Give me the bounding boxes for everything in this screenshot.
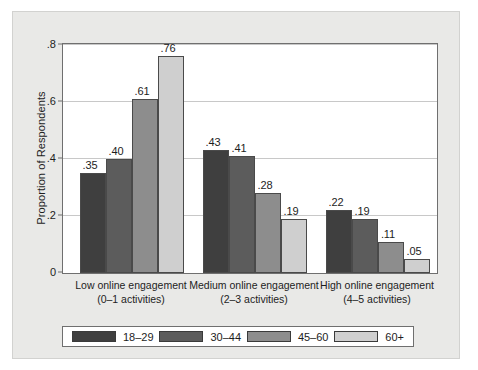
y-axis-tick-label: .6 xyxy=(47,95,63,107)
bar-value-label: .61 xyxy=(135,85,150,97)
bar-value-label: .05 xyxy=(407,245,422,257)
y-axis-tick-label: .2 xyxy=(47,209,63,221)
legend-item: 45–60 xyxy=(247,331,329,343)
bar-value-label: .76 xyxy=(161,42,176,54)
bar xyxy=(404,259,430,273)
bar-value-label: .22 xyxy=(329,196,344,208)
x-axis-category-label-line: (4–5 activities) xyxy=(307,292,447,306)
bar xyxy=(255,193,281,273)
bar-value-label: .43 xyxy=(206,136,221,148)
bar xyxy=(326,210,352,273)
gridline xyxy=(63,101,437,102)
bar xyxy=(80,173,106,273)
bar xyxy=(229,156,255,273)
legend-item: 30–44 xyxy=(159,331,241,343)
legend-label: 18–29 xyxy=(123,331,154,343)
bar xyxy=(132,99,158,273)
plot-inner: 0.2.4.6.8.35.40.61.76.43.41.28.19.22.19.… xyxy=(63,44,437,273)
bar-value-label: .19 xyxy=(355,205,370,217)
x-axis-category-label-line: Low online engagement xyxy=(61,278,201,292)
bar-value-label: .28 xyxy=(258,179,273,191)
legend-label: 60+ xyxy=(385,331,404,343)
y-axis-tick-label: 0 xyxy=(50,266,63,278)
legend-swatch xyxy=(72,331,116,342)
bar-value-label: .41 xyxy=(232,142,247,154)
y-axis-tick-label: .4 xyxy=(47,152,63,164)
bar-value-label: .11 xyxy=(381,228,395,240)
gridline xyxy=(63,44,437,45)
legend-swatch xyxy=(159,331,203,342)
x-axis-category-label-line: (0–1 activities) xyxy=(61,292,201,306)
x-axis-category-label: Medium online engagement(2–3 activities) xyxy=(184,278,324,306)
bar xyxy=(158,56,184,273)
chart-legend: 18–2930–4445–6060+ xyxy=(62,326,414,347)
y-axis-title: Proportion of Respondents xyxy=(35,78,47,238)
bar-value-label: .19 xyxy=(284,205,299,217)
bar xyxy=(352,219,378,273)
plot-area: 0.2.4.6.8.35.40.61.76.43.41.28.19.22.19.… xyxy=(62,43,438,274)
legend-swatch xyxy=(334,331,378,342)
bar-value-label: .35 xyxy=(83,159,98,171)
y-axis-tick-label: .8 xyxy=(47,38,63,50)
bar-value-label: .40 xyxy=(109,145,124,157)
bar xyxy=(203,150,229,273)
x-axis-category-label-line: Medium online engagement xyxy=(184,278,324,292)
x-axis-category-label: High online engagement(4–5 activities) xyxy=(307,278,447,306)
legend-item: 60+ xyxy=(334,331,404,343)
bar xyxy=(378,242,404,273)
x-axis-category-label-line: (2–3 activities) xyxy=(184,292,324,306)
bar xyxy=(106,159,132,273)
chart-figure: Proportion of Respondents 0.2.4.6.8.35.4… xyxy=(12,11,460,359)
legend-label: 45–60 xyxy=(298,331,329,343)
x-axis-category-label-line: High online engagement xyxy=(307,278,447,292)
legend-swatch xyxy=(247,331,291,342)
legend-item: 18–29 xyxy=(72,331,154,343)
x-axis-category-label: Low online engagement(0–1 activities) xyxy=(61,278,201,306)
bar xyxy=(281,219,307,273)
legend-label: 30–44 xyxy=(210,331,241,343)
